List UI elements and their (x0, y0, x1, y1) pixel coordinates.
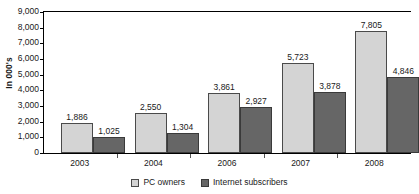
y-axis-tick-label: 4,000 (1, 85, 39, 94)
bar-group: 2,5501,304 (128, 11, 202, 153)
bar-internet-subscribers[interactable]: 2,927 (240, 107, 272, 153)
y-axis-tick-label: 2,000 (1, 117, 39, 126)
y-axis-tick-mark (40, 43, 44, 44)
bar-group: 3,8612,927 (201, 11, 275, 153)
y-axis-tick-label: 6,000 (1, 54, 39, 63)
y-axis-tick-mark (40, 90, 44, 91)
bar-group: 7,8054,846 (348, 11, 419, 153)
y-axis-tick-label: 1,000 (1, 132, 39, 141)
y-axis-tick-label: 0 (1, 148, 39, 157)
x-axis-category-label: 2004 (116, 158, 190, 168)
y-axis-tick-label: 5,000 (1, 70, 39, 79)
y-axis-line (43, 11, 44, 154)
plot-area: 01,0002,0003,0004,0005,0006,0007,0008,00… (43, 11, 411, 154)
y-axis-tick-mark (40, 12, 44, 13)
legend-label: Internet subscribers (213, 178, 288, 187)
y-axis-tick-mark (40, 137, 44, 138)
x-axis-category-label: 2003 (43, 158, 117, 168)
x-axis-line (43, 153, 411, 154)
bar-pc-owners[interactable]: 5,723 (282, 63, 314, 153)
chart-legend: PC ownersInternet subscribers (0, 178, 419, 187)
legend-swatch-pc-owners-icon (131, 179, 139, 187)
bar-internet-subscribers[interactable]: 4,846 (387, 77, 419, 153)
y-axis-tick-label: 9,000 (1, 7, 39, 16)
bar-internet-subscribers[interactable]: 1,304 (167, 133, 199, 153)
bar-value-label: 3,878 (319, 82, 340, 91)
y-axis-tick-label: 7,000 (1, 38, 39, 47)
bar-value-label: 7,805 (361, 21, 382, 30)
x-axis-category-label: 2007 (264, 158, 338, 168)
y-axis-tick-mark (40, 28, 44, 29)
bar-value-label: 5,723 (287, 53, 308, 62)
bar-pc-owners[interactable]: 2,550 (135, 113, 167, 153)
bar-pc-owners[interactable]: 3,861 (208, 93, 240, 153)
bar-group: 1,8861,025 (54, 11, 128, 153)
bar-value-label: 2,550 (140, 103, 161, 112)
bar-internet-subscribers[interactable]: 3,878 (314, 92, 346, 153)
y-axis-tick-mark (40, 106, 44, 107)
legend-swatch-internet-subscribers-icon (201, 179, 209, 187)
y-axis-tick-mark (40, 59, 44, 60)
bar-pc-owners[interactable]: 7,805 (355, 31, 387, 153)
y-axis-tick-label: 3,000 (1, 101, 39, 110)
y-axis-tick-mark (40, 153, 44, 154)
bar-value-label: 2,927 (246, 97, 267, 106)
legend-item-pc-owners[interactable]: PC owners (131, 178, 185, 187)
legend-label: PC owners (143, 178, 185, 187)
x-axis-category-label: 2008 (337, 158, 411, 168)
y-axis-tick-mark (40, 122, 44, 123)
bar-pc-owners[interactable]: 1,886 (61, 123, 93, 153)
bar-group: 5,7233,878 (275, 11, 349, 153)
x-axis-category-label: 2006 (190, 158, 264, 168)
bar-internet-subscribers[interactable]: 1,025 (93, 137, 125, 153)
bar-value-label: 3,861 (214, 83, 235, 92)
bar-chart: In 000's 01,0002,0003,0004,0005,0006,000… (0, 0, 419, 194)
y-axis-tick-mark (40, 75, 44, 76)
bar-value-label: 1,886 (66, 113, 87, 122)
legend-item-internet-subscribers[interactable]: Internet subscribers (201, 178, 288, 187)
y-axis-tick-label: 8,000 (1, 23, 39, 32)
bar-value-label: 1,304 (172, 123, 193, 132)
bar-value-label: 4,846 (393, 67, 414, 76)
bar-value-label: 1,025 (98, 127, 119, 136)
